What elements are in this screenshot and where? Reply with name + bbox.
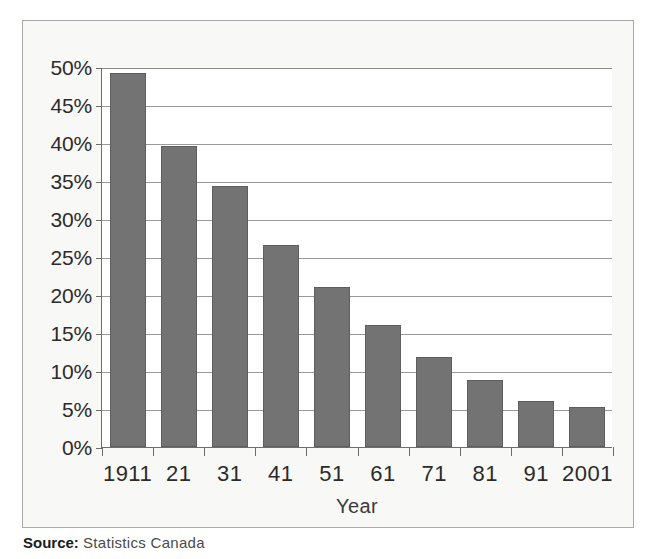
x-axis-tick xyxy=(460,447,461,456)
bar xyxy=(467,380,503,447)
x-axis-label: 2001 xyxy=(562,461,613,487)
bar xyxy=(263,245,299,447)
x-axis-tick xyxy=(102,447,103,456)
source-note: Source: Statistics Canada xyxy=(23,534,205,551)
source-text: Statistics Canada xyxy=(83,534,205,551)
x-axis-tick xyxy=(613,447,614,456)
source-label: Source: xyxy=(23,534,79,551)
bar xyxy=(212,186,248,447)
x-axis-label: 71 xyxy=(421,461,446,487)
bar xyxy=(110,73,146,447)
chart-panel: 0%5%10%15%20%25%30%35%40%45%50% 19112131… xyxy=(22,20,634,528)
bar xyxy=(365,325,401,447)
x-axis-label: 91 xyxy=(524,461,549,487)
x-axis-tick xyxy=(358,447,359,456)
y-axis-label: 40% xyxy=(51,132,92,156)
x-axis-tick xyxy=(562,447,563,456)
chart-figure: 0%5%10%15%20%25%30%35%40%45%50% 19112131… xyxy=(0,0,660,559)
x-axis-label: 41 xyxy=(268,461,293,487)
bar xyxy=(314,287,350,447)
y-axis-label: 50% xyxy=(51,56,92,80)
x-axis-label: 1911 xyxy=(103,461,152,487)
x-axis-tick xyxy=(204,447,205,456)
x-axis-label: 61 xyxy=(370,461,395,487)
y-axis-label: 20% xyxy=(51,284,92,308)
x-axis-title: Year xyxy=(102,495,612,518)
y-axis-label: 0% xyxy=(62,436,92,460)
y-axis-label: 35% xyxy=(51,170,92,194)
bar xyxy=(569,407,605,447)
bar xyxy=(518,401,554,447)
bar-series xyxy=(102,68,612,447)
x-axis-tick xyxy=(255,447,256,456)
y-axis-label: 30% xyxy=(51,208,92,232)
y-axis-label: 10% xyxy=(51,360,92,384)
bar xyxy=(416,357,452,447)
y-axis-label: 45% xyxy=(51,94,92,118)
y-axis-label: 15% xyxy=(51,322,92,346)
x-axis-label: 51 xyxy=(319,461,344,487)
x-axis-tick xyxy=(306,447,307,456)
x-axis-tick xyxy=(153,447,154,456)
x-axis-tick xyxy=(511,447,512,456)
y-axis-label: 5% xyxy=(62,398,92,422)
plot-area: 0%5%10%15%20%25%30%35%40%45%50% 19112131… xyxy=(101,68,612,448)
bar xyxy=(161,146,197,447)
x-axis-tick xyxy=(409,447,410,456)
x-axis-label: 21 xyxy=(166,461,191,487)
x-axis-label: 31 xyxy=(217,461,242,487)
y-axis-label: 25% xyxy=(51,246,92,270)
x-axis-label: 81 xyxy=(473,461,498,487)
